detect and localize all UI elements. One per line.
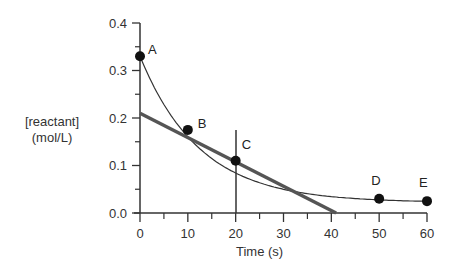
y-tick-label: 0.4 [109,16,127,31]
y-tick-label: 0.0 [109,206,127,221]
point-label-d: D [371,173,380,188]
x-tick-label: 20 [228,226,242,241]
point-label-a: A [148,42,157,57]
y-axis-title-line1: [reactant] [25,114,79,129]
x-tick-label: 50 [372,226,386,241]
data-points: ABCDE [135,42,432,206]
x-axis-title: Time (s) [236,244,283,259]
point-label-b: B [198,116,207,131]
x-tick-label: 60 [420,226,434,241]
x-ticks: 0102030405060 [136,213,434,241]
point-b [183,125,193,135]
x-tick-label: 30 [276,226,290,241]
point-d [374,194,384,204]
y-tick-label: 0.1 [109,158,127,173]
point-label-e: E [419,175,428,190]
point-c [231,156,241,166]
chart: 0.00.10.20.30.4 0102030405060 Time (s) [… [0,0,455,280]
point-e [422,196,432,206]
x-tick-label: 10 [181,226,195,241]
x-tick-label: 40 [324,226,338,241]
y-axis-title-line2: (mol/L) [32,130,72,145]
y-tick-label: 0.3 [109,63,127,78]
x-tick-label: 0 [136,226,143,241]
y-tick-label: 0.2 [109,111,127,126]
y-ticks: 0.00.10.20.30.4 [109,16,140,221]
point-label-c: C [242,137,251,152]
point-a [135,51,145,61]
